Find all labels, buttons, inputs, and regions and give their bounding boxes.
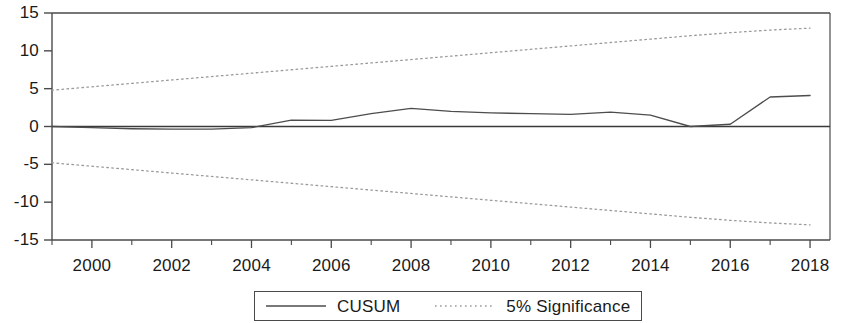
y-tick-label: -10 [0,193,39,210]
series-line-1 [52,28,810,90]
x-tick-label: 2004 [216,257,286,274]
x-tick-label: 2012 [536,257,606,274]
y-tick-label: -5 [0,155,39,172]
series-line-2 [52,163,810,225]
y-tick-label: 5 [0,80,39,97]
x-tick-label: 2018 [775,257,841,274]
legend-entry-cusum: CUSUM [265,298,400,315]
x-tick-label: 2016 [695,257,765,274]
x-tick-label: 2014 [615,257,685,274]
cusum-chart: 151050-5-10-15 2000200220042006200820102… [0,0,841,323]
series-line-0 [52,95,810,129]
y-tick-label: 10 [0,42,39,59]
legend-label: 5% Significance [506,298,630,315]
chart-legend: CUSUM5% Significance [254,291,642,321]
legend-swatch-dotted-line-icon [434,300,496,312]
x-tick-label: 2000 [57,257,127,274]
legend-entry-5-significance: 5% Significance [434,298,630,315]
x-tick-label: 2010 [456,257,526,274]
y-tick-label: 0 [0,118,39,135]
y-tick-label: 15 [0,4,39,21]
y-tick-label: -15 [0,231,39,248]
x-tick-label: 2002 [137,257,207,274]
x-tick-label: 2008 [376,257,446,274]
legend-swatch-solid-line-icon [265,300,327,312]
legend-label: CUSUM [337,298,400,315]
x-tick-label: 2006 [296,257,366,274]
